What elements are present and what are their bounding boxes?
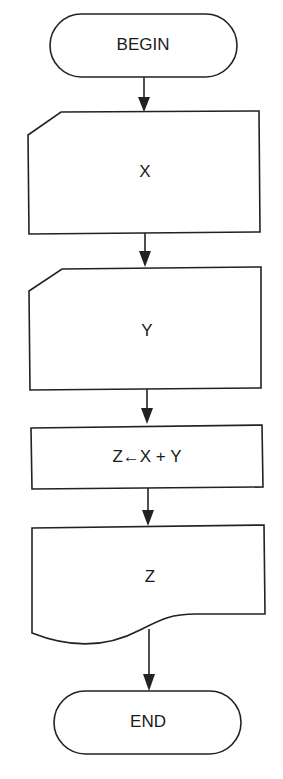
document-z-label: Z: [145, 567, 155, 586]
process-label: Z←X + Y: [112, 447, 181, 466]
begin-terminator: BEGIN: [50, 14, 237, 77]
arrow-process-to-output: [142, 488, 154, 526]
arrow-begin-to-x: [138, 77, 150, 112]
input-card-y: Y: [29, 267, 261, 390]
end-label: END: [130, 712, 166, 731]
end-terminator: END: [54, 691, 241, 754]
output-document-z: Z: [32, 525, 265, 644]
flowchart: BEGIN X Y Z←X + Y Z: [0, 0, 283, 779]
begin-label: BEGIN: [117, 35, 170, 54]
arrow-output-to-end: [143, 629, 155, 691]
arrow-x-to-y: [139, 233, 151, 267]
card-y-label: Y: [141, 321, 152, 340]
process-box: Z←X + Y: [31, 425, 263, 489]
input-card-x: X: [28, 111, 260, 234]
arrow-y-to-process: [141, 389, 153, 424]
card-x-label: X: [139, 162, 150, 181]
